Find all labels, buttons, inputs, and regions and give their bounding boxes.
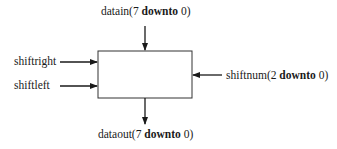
keyword: downto bbox=[144, 128, 180, 140]
port-name: dataout bbox=[98, 128, 132, 140]
port-name: shiftnum bbox=[226, 69, 267, 81]
port-name: datain bbox=[101, 5, 129, 17]
range-open: (2 bbox=[267, 69, 279, 81]
range-close: 0) bbox=[178, 5, 190, 17]
port-name: shiftright bbox=[14, 55, 56, 67]
shifter-block bbox=[98, 51, 192, 98]
keyword: downto bbox=[142, 5, 178, 17]
range-open: (7 bbox=[129, 5, 141, 17]
shiftnum-label: shiftnum(2 downto 0) bbox=[226, 70, 328, 82]
datain-label: datain(7 downto 0) bbox=[101, 6, 190, 18]
port-name: shiftleft bbox=[14, 79, 50, 91]
range-open: (7 bbox=[132, 128, 144, 140]
range-close: 0) bbox=[316, 69, 328, 81]
shiftleft-label: shiftleft bbox=[14, 80, 50, 92]
range-close: 0) bbox=[181, 128, 193, 140]
keyword: downto bbox=[279, 69, 315, 81]
dataout-label: dataout(7 downto 0) bbox=[98, 129, 193, 141]
shiftright-label: shiftright bbox=[14, 56, 56, 68]
